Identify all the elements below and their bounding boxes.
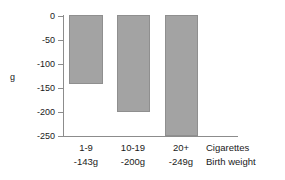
category-name-3: 20+: [157, 141, 205, 155]
category-column-3: 20+ -249g: [157, 141, 205, 169]
y-tick-mark-2: [58, 64, 64, 65]
x-axis-line: [63, 136, 238, 137]
row-legend-cigarettes: Cigarettes: [206, 141, 256, 155]
category-column-2: 10-19 -200g: [109, 141, 157, 169]
bar-10-19: [117, 15, 150, 112]
category-value-1: -143g: [62, 155, 110, 169]
category-column-1: 1-9 -143g: [62, 141, 110, 169]
y-tick-label-1: -50: [11, 36, 55, 45]
y-axis-title: g: [10, 73, 15, 82]
category-name-2: 10-19: [109, 141, 157, 155]
category-name-1: 1-9: [62, 141, 110, 155]
bar-1-9: [69, 15, 103, 84]
y-tick-mark-0: [58, 16, 64, 17]
y-tick-mark-1: [58, 40, 64, 41]
row-legend-birth-weight: Birth weight: [206, 155, 256, 169]
bar-chart: g 0 -50 -100 -150 -200 -250 1-9 -143g 10…: [0, 0, 285, 180]
y-tick-label-5: -250: [11, 132, 55, 141]
y-tick-label-3: -150: [11, 84, 55, 93]
row-legend: Cigarettes Birth weight: [206, 141, 256, 169]
y-tick-label-2: -100: [11, 60, 55, 69]
y-tick-mark-4: [58, 112, 64, 113]
y-tick-label-0: 0: [11, 12, 55, 21]
category-value-2: -200g: [109, 155, 157, 169]
y-axis-line: [63, 15, 64, 137]
category-value-3: -249g: [157, 155, 205, 169]
bar-20-plus: [165, 15, 198, 136]
y-tick-mark-3: [58, 88, 64, 89]
y-tick-label-4: -200: [11, 108, 55, 117]
